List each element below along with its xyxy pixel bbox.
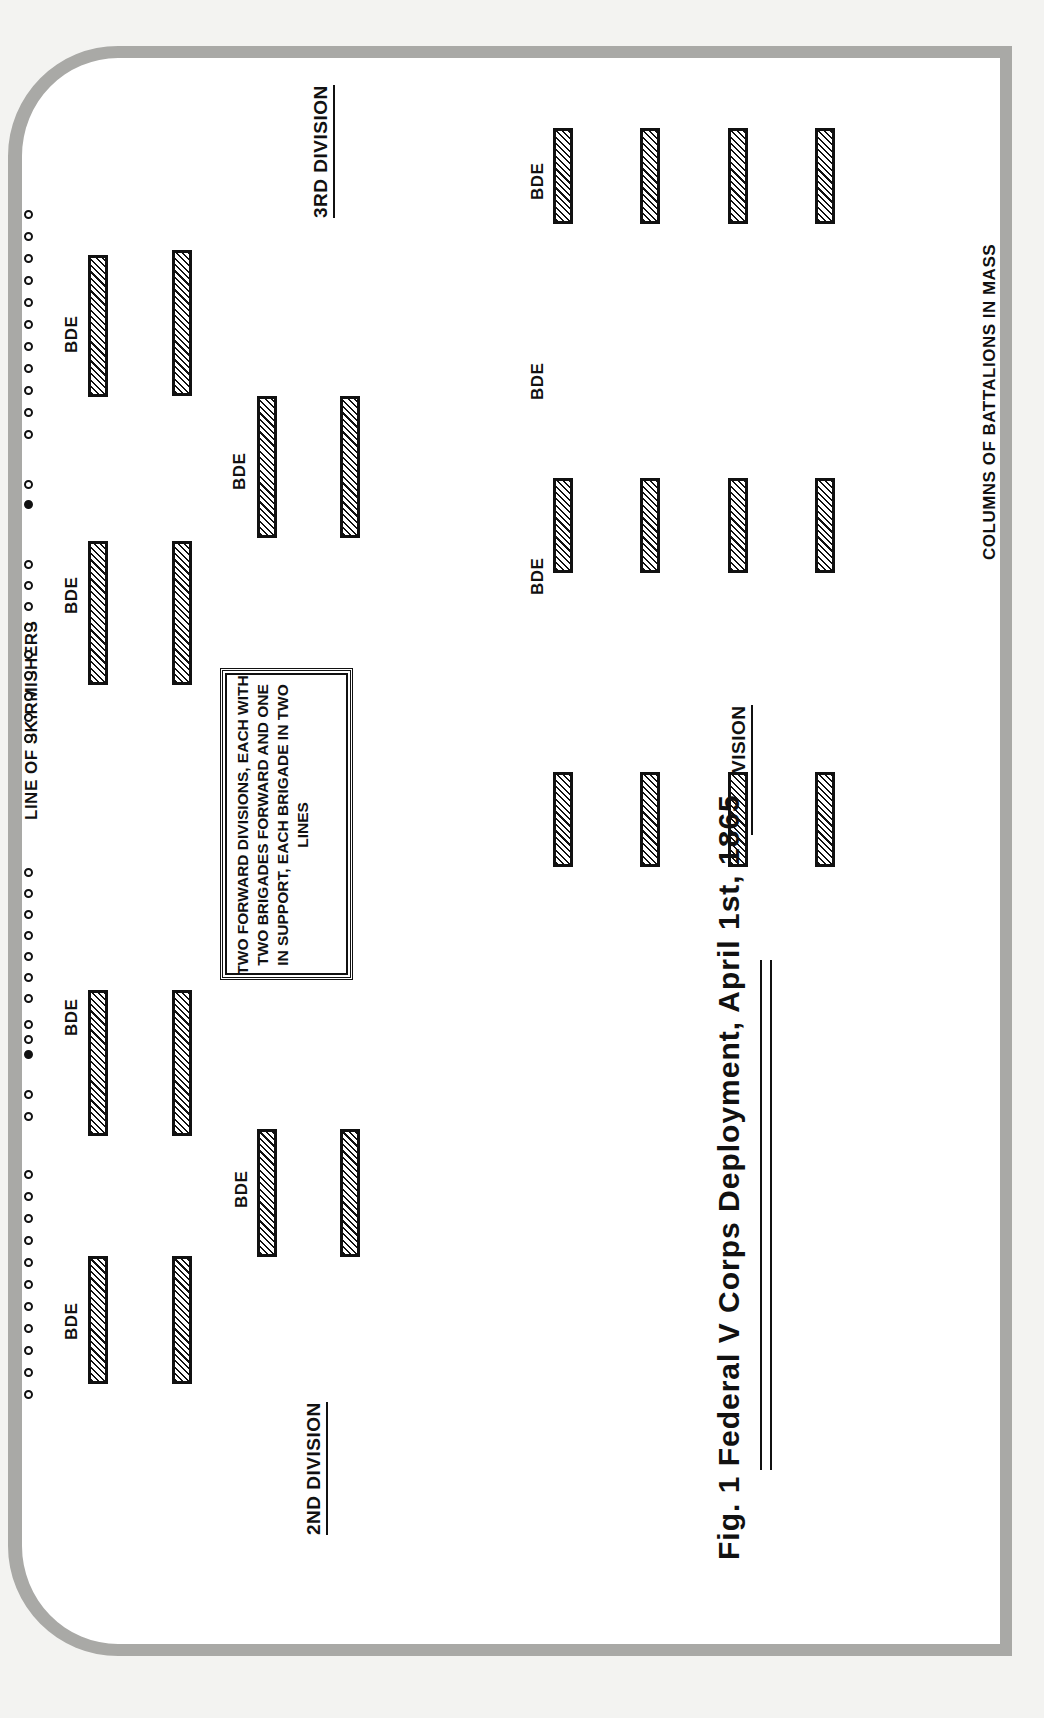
skirmisher-dot (24, 994, 33, 1003)
skirmisher-dot (24, 1390, 33, 1399)
battalion-column (815, 128, 835, 224)
skirmisher-dot (24, 623, 33, 632)
brigade-line (172, 541, 192, 685)
skirmisher-dot (24, 430, 33, 439)
battalion-column (640, 772, 660, 867)
skirmisher-dot (24, 1280, 33, 1289)
skirmisher-dot (24, 480, 33, 489)
brigade-label: BDE (62, 1303, 82, 1340)
brigade-line (257, 396, 277, 538)
brigade-line (88, 990, 108, 1136)
skirmisher-dot (24, 500, 33, 509)
brigade-line (172, 1256, 192, 1384)
brigade-line (88, 255, 108, 397)
skirmisher-dot (24, 581, 33, 590)
skirmisher-dot (24, 692, 33, 701)
battalion-column (553, 128, 573, 224)
skirmisher-dot (24, 868, 33, 877)
skirmisher-dot (24, 342, 33, 351)
skirmisher-dot (24, 320, 33, 329)
skirmisher-dot (24, 889, 33, 898)
skirmisher-dot (24, 232, 33, 241)
skirmisher-dot (24, 973, 33, 982)
battalion-column (553, 772, 573, 867)
battalion-column (640, 128, 660, 224)
skirmisher-dot (24, 210, 33, 219)
skirmisher-dot (24, 734, 33, 743)
skirmisher-dot (24, 1090, 33, 1099)
brigade-line (257, 1129, 277, 1257)
battalion-column (815, 772, 835, 867)
skirmisher-dot (24, 671, 33, 680)
skirmisher-dot (24, 650, 33, 659)
brigade-label: BDE (62, 577, 82, 614)
skirmisher-dot (24, 1214, 33, 1223)
skirmisher-dot (24, 1302, 33, 1311)
skirmisher-dot (24, 1324, 33, 1333)
skirmisher-dot (24, 1346, 33, 1355)
skirmisher-dot (24, 602, 33, 611)
skirmisher-dot (24, 276, 33, 285)
skirmisher-dot (24, 386, 33, 395)
brigade-line (340, 1129, 360, 1257)
battalion-column (640, 478, 660, 573)
brigade-line (172, 990, 192, 1136)
figure-title: Fig. 1 Federal V Corps Deployment, April… (712, 794, 746, 1560)
skirmisher-dot (24, 408, 33, 417)
skirmisher-dot (24, 1236, 33, 1245)
columns-label: COLUMNS OF BATTALIONS IN MASS (980, 244, 1000, 560)
brigade-label: BDE (62, 316, 82, 353)
skirmisher-dot (24, 1192, 33, 1201)
skirmisher-dot (24, 910, 33, 919)
skirmisher-dot (24, 298, 33, 307)
skirmisher-dot (24, 713, 33, 722)
brigade-line (88, 541, 108, 685)
skirmisher-dot (24, 931, 33, 940)
skirmisher-dot (24, 1258, 33, 1267)
brigade-label: BDE (528, 163, 548, 200)
brigade-line (88, 1256, 108, 1384)
brigade-label: BDE (230, 453, 250, 490)
brigade-label: BDE (62, 999, 82, 1036)
note-cartouche: TWO FORWARD DIVISIONS, EACH WITH TWO BRI… (220, 668, 353, 980)
battalion-column (728, 478, 748, 573)
skirmisher-dot (24, 560, 33, 569)
brigade-line (340, 396, 360, 538)
battalion-column (815, 478, 835, 573)
skirmisher-dot (24, 1170, 33, 1179)
battalion-column (553, 478, 573, 573)
title-scroll-rule (760, 960, 772, 1470)
brigade-label: BDE (528, 363, 548, 400)
division-label-third: 3RD DIVISION (310, 85, 335, 218)
note-text: TWO FORWARD DIVISIONS, EACH WITH TWO BRI… (233, 675, 313, 975)
skirmisher-dot (24, 254, 33, 263)
brigade-label: BDE (232, 1171, 252, 1208)
skirmisher-dot (24, 364, 33, 373)
skirmisher-dot (24, 1112, 33, 1121)
skirmisher-dot (24, 952, 33, 961)
battalion-column (728, 128, 748, 224)
brigade-line (172, 250, 192, 396)
diagram-frame (8, 46, 1012, 1656)
skirmisher-dot (24, 1368, 33, 1377)
skirmisher-dot (24, 1035, 33, 1044)
division-label-second: 2ND DIVISION (303, 1402, 328, 1535)
skirmisher-dot (24, 1050, 33, 1059)
skirmisher-dot (24, 1020, 33, 1029)
brigade-label: BDE (528, 558, 548, 595)
